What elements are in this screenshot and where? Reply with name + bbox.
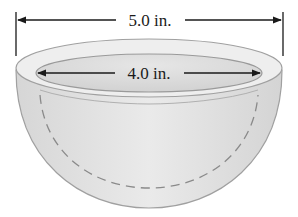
outer-dimension-label: 5.0 in.	[129, 11, 172, 30]
inner-dimension-label: 4.0 in.	[128, 64, 171, 83]
bowl-diagram: 5.0 in. 4.0 in.	[0, 0, 298, 217]
